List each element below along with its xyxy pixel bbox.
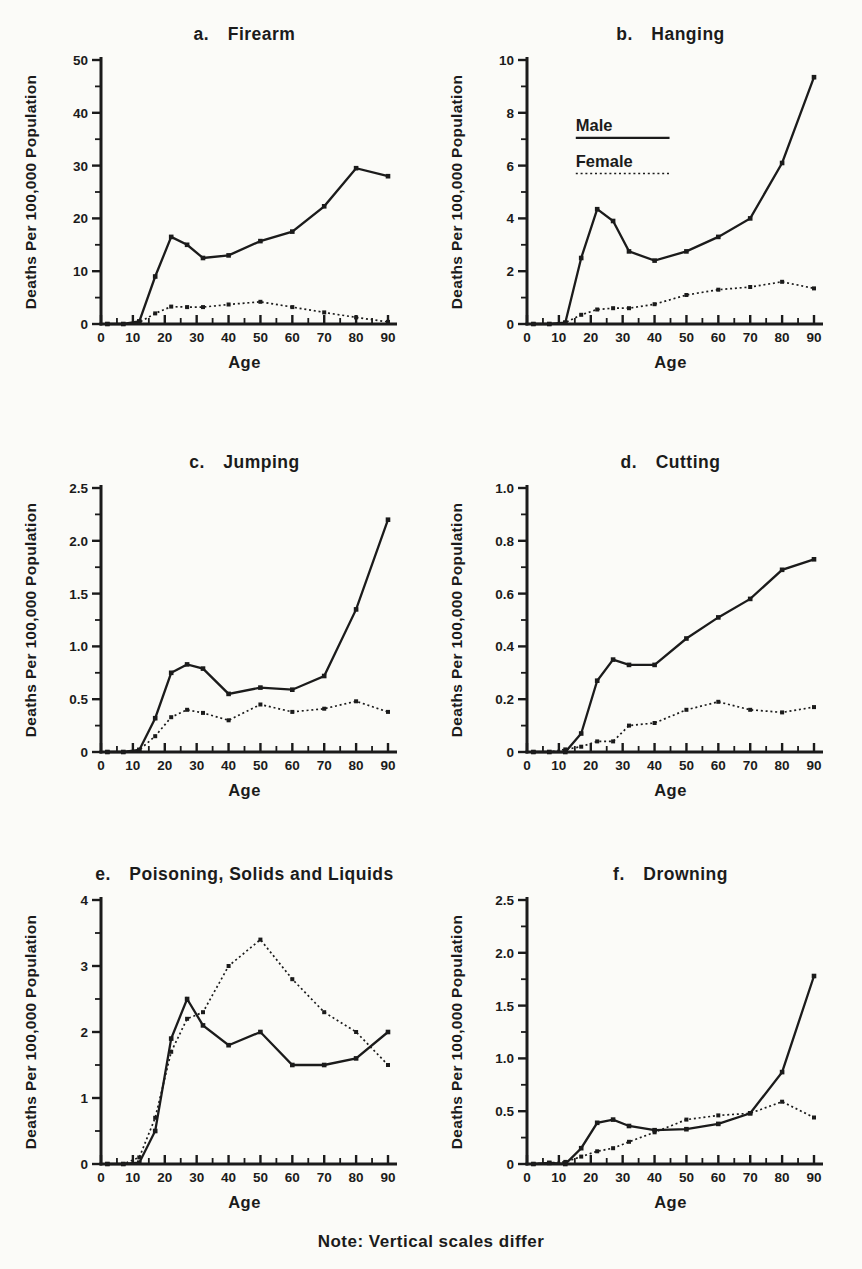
chart-poisoning-canvas: e. Poisoning, Solids and Liquids01234Dea… xyxy=(6,854,430,1236)
x-axis: 0102030405060708090 xyxy=(97,315,397,345)
data-point-marker xyxy=(258,703,262,707)
x-axis: 0102030405060708090 xyxy=(97,1155,397,1185)
y-axis-title: Deaths Per 100,000 Population xyxy=(22,915,39,1149)
x-tick-label: 10 xyxy=(551,758,566,773)
data-point-marker xyxy=(169,1036,174,1041)
data-point-marker xyxy=(812,75,817,80)
x-tick-label: 10 xyxy=(551,330,566,345)
data-point-marker xyxy=(716,235,721,240)
chart-panel-poisoning: e. Poisoning, Solids and Liquids01234Dea… xyxy=(6,854,430,1236)
chart-title: f. Drowning xyxy=(613,864,728,884)
x-tick-label: 40 xyxy=(647,758,662,773)
x-tick-label: 40 xyxy=(647,330,662,345)
data-point-marker xyxy=(684,636,689,641)
data-point-marker xyxy=(258,938,262,942)
chart-title: a. Firearm xyxy=(194,24,296,44)
chart-panel-jumping: c. Jumping00.51.01.52.02.5Deaths Per 100… xyxy=(6,442,430,824)
data-point-marker xyxy=(716,288,720,292)
y-tick-label: 10 xyxy=(73,264,88,279)
data-point-marker xyxy=(169,1050,173,1054)
x-tick-label: 80 xyxy=(349,758,364,773)
chart-jumping-canvas: c. Jumping00.51.01.52.02.5Deaths Per 100… xyxy=(6,442,430,824)
y-tick-label: 0.8 xyxy=(495,534,514,549)
data-point-marker xyxy=(153,1129,158,1134)
page-number-partial: 99 xyxy=(786,0,816,5)
x-tick-label: 60 xyxy=(711,758,726,773)
data-point-marker xyxy=(354,166,359,171)
data-point-marker xyxy=(563,1160,567,1164)
data-point-marker xyxy=(290,977,294,981)
data-point-marker xyxy=(627,306,631,310)
chart-firearm-canvas: a. Firearm01020304050Deaths Per 100,000 … xyxy=(6,14,430,396)
chart-title: d. Cutting xyxy=(621,452,721,472)
x-tick-label: 40 xyxy=(221,1170,236,1185)
data-point-marker xyxy=(579,1155,583,1159)
female-line xyxy=(107,701,388,752)
chart-cutting-canvas: d. Cutting00.20.40.60.81.0Deaths Per 100… xyxy=(432,442,856,824)
data-point-marker xyxy=(227,718,231,722)
y-axis-title: Deaths Per 100,000 Population xyxy=(448,915,465,1149)
data-point-marker xyxy=(531,322,535,326)
data-point-marker xyxy=(258,239,263,244)
data-point-marker xyxy=(322,674,327,679)
data-point-marker xyxy=(121,322,125,326)
y-tick-label: 30 xyxy=(73,159,88,174)
data-point-marker xyxy=(579,1146,584,1151)
data-point-marker xyxy=(653,1130,657,1134)
y-axis-title: Deaths Per 100,000 Population xyxy=(22,503,39,737)
female-series xyxy=(531,700,816,754)
y-tick-label: 20 xyxy=(73,211,88,226)
x-tick-label: 90 xyxy=(380,330,395,345)
legend: MaleFemale xyxy=(576,116,670,173)
x-tick-label: 70 xyxy=(743,1170,758,1185)
x-tick-label: 0 xyxy=(523,758,531,773)
data-point-marker xyxy=(716,615,721,620)
data-point-marker xyxy=(611,657,616,662)
data-point-marker xyxy=(137,1160,142,1165)
data-point-marker xyxy=(780,568,785,573)
data-point-marker xyxy=(611,306,615,310)
data-point-marker xyxy=(748,216,753,221)
x-tick-label: 90 xyxy=(806,1170,821,1185)
x-tick-label: 10 xyxy=(125,1170,140,1185)
data-point-marker xyxy=(716,1113,720,1117)
x-tick-label: 70 xyxy=(317,758,332,773)
data-point-marker xyxy=(105,750,109,754)
y-tick-label: 40 xyxy=(73,106,88,121)
y-tick-label: 0 xyxy=(80,745,88,760)
data-point-marker xyxy=(386,710,390,714)
x-tick-label: 60 xyxy=(711,1170,726,1185)
x-tick-label: 80 xyxy=(349,330,364,345)
y-tick-label: 2.5 xyxy=(495,893,514,908)
data-point-marker xyxy=(201,1023,206,1028)
x-tick-label: 30 xyxy=(615,758,630,773)
data-point-marker xyxy=(579,256,584,261)
x-tick-label: 30 xyxy=(615,330,630,345)
x-tick-label: 90 xyxy=(380,758,395,773)
data-point-marker xyxy=(595,1121,600,1126)
data-point-marker xyxy=(169,671,174,676)
data-point-marker xyxy=(684,293,688,297)
data-point-marker xyxy=(611,219,616,224)
x-tick-label: 60 xyxy=(285,330,300,345)
x-tick-label: 20 xyxy=(583,1170,598,1185)
x-tick-label: 60 xyxy=(285,758,300,773)
male-series xyxy=(531,557,816,754)
data-point-marker xyxy=(322,310,326,314)
female-line xyxy=(533,702,814,752)
x-axis-title: Age xyxy=(228,1193,261,1211)
data-point-marker xyxy=(290,1063,295,1068)
data-point-marker xyxy=(258,1030,263,1035)
y-tick-label: 2 xyxy=(506,264,514,279)
y-tick-label: 0.5 xyxy=(69,692,88,707)
data-point-marker xyxy=(748,285,752,289)
x-tick-label: 80 xyxy=(349,1170,364,1185)
y-tick-label: 4 xyxy=(506,211,514,226)
x-tick-label: 20 xyxy=(583,330,598,345)
x-tick-label: 50 xyxy=(679,330,694,345)
data-point-marker xyxy=(226,253,231,258)
data-point-marker xyxy=(201,1010,205,1014)
male-line xyxy=(533,77,814,324)
x-axis-title: Age xyxy=(228,353,261,371)
data-point-marker xyxy=(812,705,816,709)
